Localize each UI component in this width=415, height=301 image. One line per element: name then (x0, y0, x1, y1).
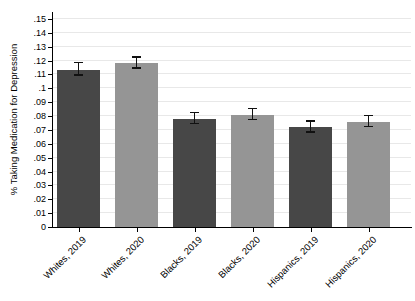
bar-hispanics-2019 (289, 127, 332, 227)
bar-whites-2019 (57, 70, 100, 227)
x-tick-mark (79, 228, 80, 232)
y-tick-mark (48, 102, 52, 103)
y-tick-label: .12 (16, 56, 46, 66)
gridline (53, 101, 411, 102)
bar-hispanics-2020 (347, 122, 390, 227)
y-tick-mark (48, 199, 52, 200)
x-tick-label-hispanics-2019: Hispanics, 2019 (265, 234, 321, 290)
error-bar-cap (190, 123, 199, 125)
error-bar-cap (364, 126, 373, 128)
y-tick-mark (48, 144, 52, 145)
error-bar-cap (132, 67, 141, 69)
y-tick-mark (48, 74, 52, 75)
y-tick-label: 0 (16, 222, 46, 232)
x-tick-mark (311, 228, 312, 232)
x-tick-mark (137, 228, 138, 232)
y-tick-label: .13 (16, 42, 46, 52)
y-tick-mark (48, 33, 52, 34)
y-tick-label: .1 (16, 83, 46, 93)
gridline (53, 46, 411, 47)
bar-whites-2020 (115, 63, 158, 227)
y-tick-label: .06 (16, 139, 46, 149)
y-axis-line (52, 12, 53, 228)
y-tick-label: .07 (16, 125, 46, 135)
y-tick-label: .14 (16, 28, 46, 38)
bar-blacks-2020 (231, 115, 274, 227)
error-bar-cap (306, 131, 315, 133)
gridline (53, 60, 411, 61)
y-tick-label: .08 (16, 111, 46, 121)
error-bar-cap (132, 56, 141, 58)
y-tick-mark (48, 61, 52, 62)
x-axis-line (52, 227, 412, 228)
error-bar-cap (248, 108, 257, 110)
gridline (53, 87, 411, 88)
gridline (53, 32, 411, 33)
y-tick-label: .01 (16, 208, 46, 218)
x-tick-label-whites-2019: Whites, 2019 (41, 234, 88, 281)
x-tick-label-blacks-2019: Blacks, 2019 (158, 234, 204, 280)
bar-blacks-2019 (173, 119, 216, 227)
x-tick-mark (369, 228, 370, 232)
y-tick-mark (48, 88, 52, 89)
y-tick-mark (48, 130, 52, 131)
x-tick-label-whites-2020: Whites, 2020 (99, 234, 146, 281)
gridline (53, 73, 411, 74)
x-tick-mark (195, 228, 196, 232)
x-tick-mark (253, 228, 254, 232)
y-tick-label: .11 (16, 69, 46, 79)
bar-chart-figure: % Taking Medication for Depression 0.01.… (0, 0, 415, 301)
y-tick-label: .02 (16, 194, 46, 204)
error-bar-cap (74, 74, 83, 76)
plot-area (53, 12, 411, 227)
y-tick-label: .04 (16, 167, 46, 177)
y-tick-mark (48, 116, 52, 117)
y-tick-mark (48, 47, 52, 48)
error-bar-cap (364, 115, 373, 117)
x-tick-label-hispanics-2020: Hispanics, 2020 (323, 234, 379, 290)
y-tick-mark (48, 185, 52, 186)
y-tick-mark (48, 172, 52, 173)
y-tick-label: .09 (16, 97, 46, 107)
y-tick-mark (48, 158, 52, 159)
y-tick-mark (48, 19, 52, 20)
error-bar-cap (306, 120, 315, 122)
y-tick-label: .15 (16, 14, 46, 24)
y-tick-label: .05 (16, 153, 46, 163)
error-bar-cap (190, 112, 199, 114)
x-tick-label-blacks-2020: Blacks, 2020 (216, 234, 262, 280)
y-tick-label: .03 (16, 180, 46, 190)
gridline (53, 18, 411, 19)
y-tick-mark (48, 213, 52, 214)
error-bar-cap (248, 119, 257, 121)
error-bar-cap (74, 62, 83, 64)
y-tick-mark (48, 227, 52, 228)
